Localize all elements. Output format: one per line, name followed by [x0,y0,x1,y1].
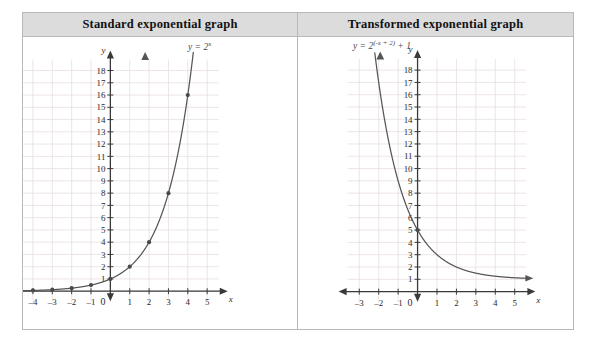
svg-text:–2: –2 [66,297,76,307]
svg-text:–3: –3 [47,297,57,307]
svg-text:14: 14 [404,115,413,125]
y-axis-label: y [408,44,413,54]
data-point [89,283,93,287]
svg-text:3: 3 [474,298,479,308]
svg-text:0: 0 [100,296,105,307]
svg-text:12: 12 [96,139,105,149]
axes [23,51,228,302]
svg-text:15: 15 [404,102,413,112]
svg-text:18: 18 [404,65,413,75]
curve-path [375,53,527,278]
svg-text:14: 14 [96,115,105,125]
svg-text:8: 8 [101,188,106,198]
x-axis-label: x [535,295,540,305]
svg-text:4: 4 [186,297,191,307]
data-point [70,286,74,290]
svg-text:–2: –2 [373,298,383,308]
cell-standard-graph: y = 2x –4–3–2–11234512345678910111213141… [23,37,298,330]
data-point [31,288,35,292]
svg-text:4: 4 [408,238,413,248]
curve-arrow [376,51,384,59]
svg-text:–3: –3 [354,298,364,308]
cell-transformed-graph: y = 2(-x + 2) + 1 –3–2–11234512345678910… [298,37,573,330]
svg-text:5: 5 [512,298,517,308]
data-point [147,240,151,244]
svg-text:2: 2 [147,297,151,307]
svg-text:2: 2 [454,298,458,308]
svg-text:13: 13 [96,127,105,137]
data-point [50,288,54,292]
svg-text:16: 16 [96,90,105,100]
svg-text:6: 6 [101,213,106,223]
svg-text:–1: –1 [86,297,96,307]
svg-text:–1: –1 [393,298,403,308]
chart-transformed-exponential: –3–2–1123451234567891011121314151617180x… [298,37,573,330]
data-points [415,228,419,232]
data-point [108,277,112,281]
svg-text:2: 2 [101,262,105,272]
data-point [415,228,419,232]
svg-text:11: 11 [97,152,106,162]
svg-text:9: 9 [101,176,106,186]
svg-text:1: 1 [127,297,131,307]
svg-text:13: 13 [404,127,413,137]
svg-text:3: 3 [101,250,106,260]
table-header-row: Standard exponential graph Transformed e… [23,13,573,37]
svg-text:10: 10 [404,164,413,174]
svg-text:17: 17 [404,78,413,88]
svg-text:3: 3 [166,297,171,307]
svg-text:18: 18 [96,66,105,76]
svg-text:6: 6 [408,213,413,223]
column-header-transformed: Transformed exponential graph [298,13,573,36]
svg-text:4: 4 [101,237,106,247]
svg-text:1: 1 [435,298,439,308]
curve-arrow-right-tail [525,275,533,281]
svg-text:3: 3 [408,250,413,260]
svg-text:8: 8 [408,188,413,198]
column-header-standard: Standard exponential graph [23,13,298,36]
svg-text:1: 1 [408,274,412,284]
svg-text:16: 16 [404,90,413,100]
curve-arrow [141,52,149,60]
svg-text:9: 9 [408,176,413,186]
svg-text:7: 7 [101,201,106,211]
svg-text:11: 11 [404,151,413,161]
svg-text:–4: –4 [27,297,37,307]
y-axis-label: y [100,45,105,55]
svg-text:17: 17 [96,78,105,88]
curve-path [23,52,193,290]
x-axis-label: x [228,294,233,304]
svg-text:4: 4 [493,298,498,308]
svg-text:5: 5 [205,297,210,307]
svg-text:5: 5 [408,225,413,235]
tick-labels: –4–3–2–112345123456789101112131415161718… [27,66,209,307]
svg-text:2: 2 [408,262,412,272]
svg-text:7: 7 [408,201,413,211]
page-root: Standard exponential graph Transformed e… [0,0,596,344]
comparison-table: Standard exponential graph Transformed e… [22,12,574,330]
svg-text:0: 0 [408,297,413,308]
data-point [166,191,170,195]
svg-text:15: 15 [96,102,105,112]
grid-lines [348,59,527,303]
svg-text:10: 10 [96,164,105,174]
svg-text:12: 12 [404,139,413,149]
data-point [128,265,132,269]
svg-text:5: 5 [101,225,106,235]
chart-standard-exponential: –4–3–2–112345123456789101112131415161718… [23,37,297,330]
data-point [186,93,190,97]
table-body-row: y = 2x –4–3–2–11234512345678910111213141… [23,37,573,330]
